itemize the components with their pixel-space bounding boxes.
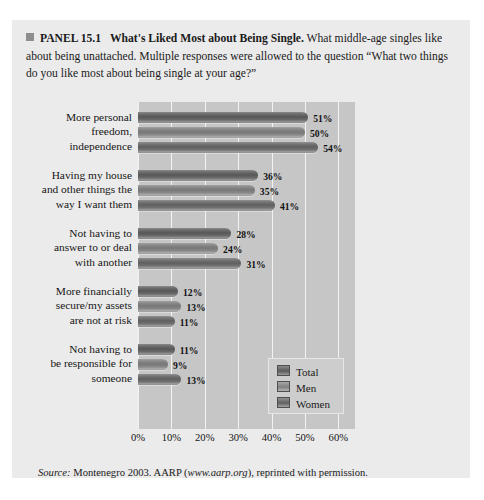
bar-value-label: 51%	[313, 113, 332, 124]
plot-area: 51%50%54%36%35%41%28%24%31%12%13%11%11%9…	[138, 102, 355, 429]
legend-label-women: Women	[296, 398, 330, 410]
legend-swatch-women-icon	[277, 397, 290, 408]
bar-total	[138, 228, 231, 239]
category-label-line: and other things the	[28, 182, 132, 196]
category-label-line: independence	[28, 139, 132, 153]
bar-value-label: 50%	[310, 128, 329, 139]
bar-men	[138, 185, 255, 196]
category-label-line: Not having to	[28, 342, 132, 356]
bar-value-label: 31%	[246, 259, 265, 270]
x-tick-label: 40%	[257, 432, 287, 443]
bar-total	[138, 112, 308, 123]
legend-swatch-total-icon	[277, 365, 290, 376]
bar-men	[138, 127, 305, 138]
category-label-line: are not at risk	[28, 313, 132, 327]
x-tick-label: 20%	[190, 432, 220, 443]
x-axis-ticks: 0%10%20%30%40%50%60%	[138, 432, 355, 448]
category-label-line: with another	[28, 255, 132, 269]
category-label: Not having toanswer to or dealwith anoth…	[28, 226, 132, 269]
bar-value-label: 13%	[186, 302, 205, 313]
bar-value-label: 13%	[186, 375, 205, 386]
category-label: Having my houseand other things theway I…	[28, 168, 132, 211]
bar-value-label: 11%	[180, 345, 199, 356]
legend-item-women: Women	[277, 397, 330, 411]
bar-women	[138, 142, 318, 153]
source-text-after: ), reprinted with permission.	[248, 467, 368, 478]
bar-women	[138, 374, 181, 385]
bar-men	[138, 301, 181, 312]
category-label: More personalfreedom,independence	[28, 110, 132, 153]
category-label-line: freedom,	[28, 124, 132, 138]
legend-label-men: Men	[296, 382, 316, 394]
category-label: More financiallysecure/my assetsare not …	[28, 284, 132, 327]
x-tick-label: 50%	[290, 432, 320, 443]
bar-value-label: 24%	[223, 244, 242, 255]
bar-value-label: 54%	[323, 143, 342, 154]
source-text-before: Montenegro 2003. AARP (	[71, 467, 188, 478]
category-label-line: way I want them	[28, 197, 132, 211]
x-tick-label: 10%	[156, 432, 186, 443]
bar-women	[138, 316, 175, 327]
category-label-line: secure/my assets	[28, 298, 132, 312]
panel-container: PANEL 15.1What's Liked Most about Being …	[12, 20, 470, 478]
bar-men	[138, 359, 168, 370]
x-tick-label: 60%	[323, 432, 353, 443]
bar-value-label: 41%	[280, 201, 299, 212]
bar-total	[138, 344, 175, 355]
bar-value-label: 36%	[263, 171, 282, 182]
category-label-line: More personal	[28, 110, 132, 124]
category-label-line: Not having to	[28, 226, 132, 240]
legend-item-men: Men	[277, 381, 316, 395]
legend-swatch-men-icon	[277, 381, 290, 392]
bar-chart: More personalfreedom,independenceHaving …	[12, 102, 470, 452]
legend-label-total: Total	[296, 366, 318, 378]
bar-value-label: 9%	[173, 360, 187, 371]
bar-women	[138, 200, 275, 211]
bar-value-label: 11%	[180, 317, 199, 328]
category-label-line: be responsible for	[28, 356, 132, 370]
panel-bullet-icon	[26, 33, 34, 41]
bar-women	[138, 258, 241, 269]
bar-value-label: 12%	[183, 287, 202, 298]
category-label-line: someone	[28, 371, 132, 385]
chart-legend: Total Men Women	[268, 358, 344, 414]
bar-value-label: 28%	[236, 229, 255, 240]
source-label: Source:	[38, 467, 71, 478]
x-tick-label: 0%	[123, 432, 153, 443]
bar-men	[138, 243, 218, 254]
category-label-line: More financially	[28, 284, 132, 298]
panel-title: What's Liked Most about Being Single.	[110, 32, 304, 45]
bar-value-label: 35%	[260, 186, 279, 197]
panel-header: PANEL 15.1What's Liked Most about Being …	[26, 30, 458, 83]
bar-total	[138, 286, 178, 297]
category-label-line: Having my house	[28, 168, 132, 182]
category-label: Not having tobe responsible forsomeone	[28, 342, 132, 385]
category-label-line: answer to or deal	[28, 240, 132, 254]
legend-item-total: Total	[277, 365, 318, 379]
x-tick-label: 30%	[223, 432, 253, 443]
panel-description-line1: What middle-age	[307, 32, 387, 45]
source-url: www.aarp.org	[188, 467, 248, 478]
panel-number: PANEL 15.1	[40, 32, 101, 45]
bar-total	[138, 170, 258, 181]
source-note: Source: Montenegro 2003. AARP (www.aarp.…	[38, 466, 468, 480]
